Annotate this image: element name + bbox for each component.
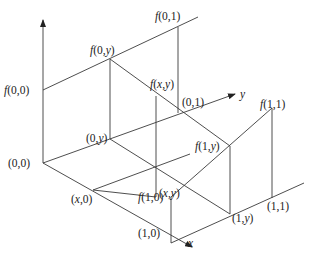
label-f0y: f(0,y) [90,44,115,57]
label-pxy: (x,y) [159,187,180,200]
x-axis-label: x [187,237,194,249]
x-axis [43,163,192,247]
edge-f10-f11 [171,108,272,197]
label-px0: (x,0) [71,193,93,206]
floor-line-x-ext [93,154,190,190]
label-p00: (0,0) [8,157,30,170]
label-f1y: f(1,y) [195,140,220,153]
label-fxy: f(x,y) [150,78,174,91]
label-f11: f(1,1) [260,98,285,111]
label-f00: f(0,0) [4,84,29,97]
label-p10: (1,0) [138,227,160,240]
y-axis-label: y [239,88,246,101]
label-f01: f(0,1) [155,10,180,23]
label-p0y: (0,y) [86,132,108,145]
label-p01: (0,1) [182,96,204,109]
edge-f00-f01 [43,17,198,90]
interpolation-diagram: y x f(0,0) f(0,y) f(0,1) f(x,y) f(1,y) f… [0,0,326,261]
label-p1y: (1,y) [232,212,254,225]
label-p11: (1,1) [267,200,289,213]
